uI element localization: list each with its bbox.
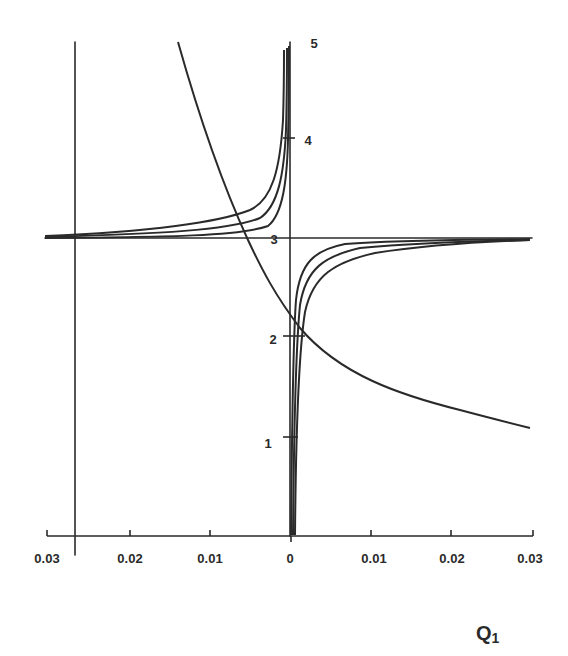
x-axis-labels: 0.03 0.02 0.01 0 0.01 0.02 0.03 bbox=[34, 551, 542, 566]
hyperbola-branch-left-1 bbox=[45, 50, 284, 236]
y-tick-label: 1 bbox=[264, 436, 271, 451]
y-tick-label: 4 bbox=[304, 133, 312, 148]
x-axis-title-main: Q bbox=[476, 622, 492, 644]
y-tick-label: 5 bbox=[310, 36, 317, 51]
y-axis-ticks bbox=[283, 138, 305, 437]
y-tick-label: 3 bbox=[270, 232, 277, 247]
chart-canvas: 0.03 0.02 0.01 0 0.01 0.02 0.03 Q1 1 2 3… bbox=[0, 0, 568, 656]
hyperbola-branch-right-1 bbox=[291, 239, 530, 535]
x-tick-label: 0.01 bbox=[361, 551, 386, 566]
x-tick-label: 0.03 bbox=[517, 551, 542, 566]
y-axis-labels: 1 2 3 4 5 bbox=[264, 36, 317, 451]
x-tick-label: 0 bbox=[286, 551, 293, 566]
hyperbola-branch-right-3 bbox=[295, 240, 530, 535]
y-tick-label: 2 bbox=[269, 332, 276, 347]
x-tick-label: 0.02 bbox=[439, 551, 464, 566]
x-axis-title-subscript: 1 bbox=[492, 630, 500, 646]
hyperbola-branch-right-2 bbox=[293, 240, 530, 535]
decreasing-curve bbox=[178, 42, 530, 428]
x-tick-label: 0.01 bbox=[197, 551, 222, 566]
x-axis-title: Q1 bbox=[476, 622, 500, 646]
x-tick-label: 0.03 bbox=[34, 551, 59, 566]
x-tick-label: 0.02 bbox=[117, 551, 142, 566]
